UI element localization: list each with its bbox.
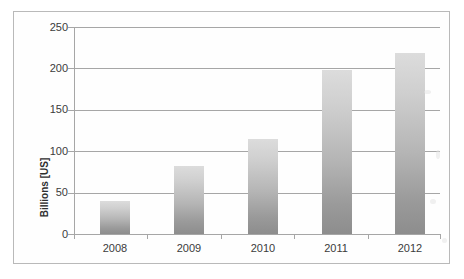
gridline-150 (74, 110, 440, 111)
y-tick-label: 200 (24, 63, 68, 74)
scan-artifact (436, 150, 440, 159)
bar-2012[interactable] (395, 53, 425, 234)
x-tick-label-2012: 2012 (380, 242, 440, 254)
y-tick-label: 150 (24, 104, 68, 115)
bar-2011[interactable] (322, 70, 352, 234)
y-tick-label: 250 (24, 22, 68, 33)
x-tick-label-2011: 2011 (306, 242, 366, 254)
scan-artifact (424, 90, 431, 94)
gridline-250 (74, 27, 440, 28)
x-axis-line (74, 234, 441, 235)
x-tick-mark (147, 234, 148, 239)
x-tick-mark (74, 234, 75, 239)
x-tick-label-2010: 2010 (233, 242, 293, 254)
bar-2010[interactable] (248, 139, 278, 234)
gridline-200 (74, 68, 440, 69)
bar-2009[interactable] (174, 166, 204, 234)
y-tick-label: 50 (24, 187, 68, 198)
bar-2008[interactable] (100, 201, 130, 234)
scan-artifact (442, 238, 447, 243)
x-tick-mark (221, 234, 222, 239)
y-axis-tick-labels: 250 200 150 100 50 0 (16, 0, 68, 279)
y-tick-label: 0 (24, 229, 68, 240)
bar-chart-figure: Billions [US] 250 200 150 100 50 0 2008 (0, 0, 464, 279)
y-tick-label: 100 (24, 146, 68, 157)
x-tick-mark (294, 234, 295, 239)
x-tick-mark (368, 234, 369, 239)
scan-artifact (430, 199, 436, 204)
x-tick-label-2008: 2008 (85, 242, 145, 254)
x-tick-label-2009: 2009 (159, 242, 219, 254)
x-tick-mark (440, 234, 441, 239)
plot-area (74, 27, 440, 234)
